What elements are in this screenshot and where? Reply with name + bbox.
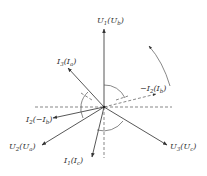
- svg-text:−I2(Ib): −I2(Ib): [140, 84, 166, 94]
- svg-text:I1(Ic): I1(Ic): [63, 156, 83, 166]
- label-U1: U1(Ub): [97, 16, 124, 26]
- svg-text:I3(Ia): I3(Ia): [56, 57, 76, 67]
- phasor-I1: [92, 107, 104, 157]
- angle-tick-right: [116, 96, 128, 100]
- label-I1: I1(Ic): [63, 156, 83, 166]
- svg-text:I2(−Ib): I2(−Ib): [25, 115, 52, 125]
- label-I3: I3(Ia): [56, 57, 76, 67]
- angle-arc-I1-U3: [97, 121, 123, 131]
- label-neg-I2: −I2(Ib): [140, 84, 166, 94]
- phasor-I3: [68, 68, 104, 107]
- svg-text:U2(Ua): U2(Ua): [9, 142, 36, 152]
- label-U3: U3(Uc): [170, 142, 196, 152]
- svg-text:U1(Ub): U1(Ub): [97, 16, 124, 26]
- phasor-U2: [42, 107, 104, 145]
- angle-arc-U1-negI2: [104, 85, 125, 98]
- phasor-neg-I2: [104, 94, 156, 107]
- origin-point: [103, 106, 105, 108]
- label-U2: U2(Ua): [9, 142, 36, 152]
- rotation-direction-icon: [149, 46, 170, 86]
- label-I2: I2(−Ib): [25, 115, 52, 125]
- phasor-I2: [53, 107, 104, 118]
- angle-arc-I3-I2: [81, 92, 88, 118]
- svg-text:U3(Uc): U3(Uc): [170, 142, 196, 152]
- phasor-diagram: U1(Ub) I3(Ia) −I2(Ib) I2(−Ib) U2(Ua) I1(…: [0, 0, 207, 176]
- phasor-U3: [104, 107, 167, 145]
